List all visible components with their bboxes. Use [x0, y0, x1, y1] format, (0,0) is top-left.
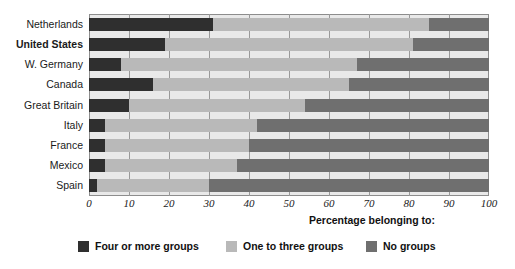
bar-segment	[429, 18, 489, 31]
legend-item[interactable]: One to three groups	[226, 240, 343, 252]
legend-label: No groups	[383, 240, 436, 252]
bar-segment	[165, 38, 413, 51]
bar-segment	[153, 78, 349, 91]
bar-row	[89, 58, 489, 71]
bar-segment	[105, 139, 249, 152]
category-label-canada: Canada	[46, 78, 83, 91]
x-tick-20: 20	[164, 197, 175, 209]
x-tick-60: 60	[324, 197, 335, 209]
bar-segment	[213, 18, 429, 31]
bar-row	[89, 38, 489, 51]
category-label-spain: Spain	[56, 179, 83, 192]
bar-segment	[89, 99, 129, 112]
legend-item[interactable]: Four or more groups	[78, 240, 199, 252]
category-label-united-states: United States	[16, 38, 83, 51]
bar-segment	[209, 179, 489, 192]
bar-segment	[89, 179, 97, 192]
bar-segment	[305, 99, 489, 112]
x-tick-70: 70	[364, 197, 375, 209]
x-tick-80: 80	[404, 197, 415, 209]
x-tick-100: 100	[481, 197, 498, 209]
bar-segment	[121, 58, 357, 71]
bar-segment	[89, 139, 105, 152]
x-tick-10: 10	[124, 197, 135, 209]
bar-segment	[249, 139, 489, 152]
category-axis-labels: NetherlandsUnited StatesW. GermanyCanada…	[0, 14, 86, 196]
x-tick-40: 40	[244, 197, 255, 209]
bar-segment	[89, 38, 165, 51]
category-label-w-germany: W. Germany	[25, 58, 83, 71]
bar-segment	[105, 159, 237, 172]
x-tick-90: 90	[444, 197, 455, 209]
plot-area	[89, 14, 489, 196]
bar-row	[89, 179, 489, 192]
bar-segment	[257, 119, 489, 132]
x-axis-title: Percentage belonging to:	[0, 214, 435, 226]
bar-segment	[89, 159, 105, 172]
x-tick-30: 30	[204, 197, 215, 209]
stacked-bar-chart: NetherlandsUnited StatesW. GermanyCanada…	[0, 0, 515, 269]
legend-swatch-icon	[226, 241, 237, 252]
category-label-netherlands: Netherlands	[26, 18, 83, 31]
bar-segment	[97, 179, 209, 192]
legend-swatch-icon	[366, 241, 377, 252]
bar-segment	[89, 119, 105, 132]
bar-row	[89, 18, 489, 31]
legend-label: One to three groups	[243, 240, 343, 252]
legend-label: Four or more groups	[95, 240, 199, 252]
chart-legend: Four or more groupsOne to three groupsNo…	[78, 240, 458, 256]
bar-segment	[237, 159, 489, 172]
bar-rows	[89, 14, 489, 196]
legend-item[interactable]: No groups	[366, 240, 436, 252]
bar-row	[89, 119, 489, 132]
category-label-france: France	[50, 139, 83, 152]
bar-segment	[105, 119, 257, 132]
bar-segment	[357, 58, 489, 71]
bar-segment	[129, 99, 305, 112]
bar-segment	[349, 78, 489, 91]
bar-row	[89, 139, 489, 152]
category-label-great-britain: Great Britain	[24, 99, 83, 112]
x-tick-50: 50	[284, 197, 295, 209]
bar-segment	[413, 38, 489, 51]
category-label-italy: Italy	[64, 119, 83, 132]
x-axis-tick-labels: 0102030405060708090100	[89, 197, 489, 213]
bar-segment	[89, 58, 121, 71]
x-tick-0: 0	[86, 197, 92, 209]
bar-segment	[89, 18, 213, 31]
bar-row	[89, 159, 489, 172]
bar-segment	[89, 78, 153, 91]
bar-row	[89, 78, 489, 91]
legend-swatch-icon	[78, 241, 89, 252]
bar-row	[89, 99, 489, 112]
category-label-mexico: Mexico	[50, 159, 83, 172]
